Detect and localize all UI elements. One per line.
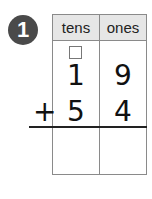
header-ones: ones: [100, 15, 146, 40]
place-value-table: tens ones 1 9 5 4: [52, 14, 147, 175]
plus-sign: +: [33, 95, 56, 128]
answer-tens[interactable]: [53, 140, 99, 174]
problem-number-badge: 1: [8, 15, 38, 45]
sum-line: [29, 126, 147, 128]
addend2-ones: 4: [100, 95, 146, 128]
addend2-tens: 5: [53, 95, 99, 128]
carry-box[interactable]: [69, 46, 82, 59]
addend1-tens: 1: [53, 59, 99, 92]
addend1-ones: 9: [100, 59, 146, 92]
header-tens: tens: [53, 15, 99, 40]
answer-ones[interactable]: [100, 140, 146, 174]
